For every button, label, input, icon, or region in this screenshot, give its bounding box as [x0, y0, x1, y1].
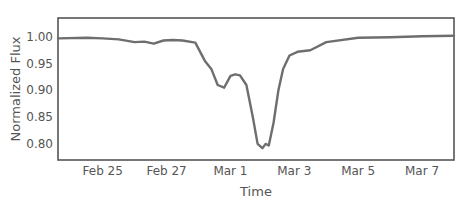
y-axis-label: Normalized Flux — [8, 36, 23, 141]
x-axis-ticks: Feb 25Feb 27Mar 1Mar 3Mar 5Mar 7 — [83, 164, 440, 178]
y-tick-label: 0.95 — [26, 57, 53, 71]
y-tick-label: 0.80 — [26, 137, 53, 151]
x-tick-label: Feb 27 — [146, 164, 186, 178]
flux-chart: 1.000.950.900.850.80 Feb 25Feb 27Mar 1Ma… — [0, 0, 466, 205]
y-tick-label: 0.85 — [26, 110, 53, 124]
y-tick-label: 1.00 — [26, 30, 53, 44]
x-axis-label: Time — [239, 184, 272, 199]
x-tick-label: Feb 25 — [83, 164, 123, 178]
x-tick-label: Mar 7 — [405, 164, 439, 178]
flux-line — [58, 36, 454, 149]
x-tick-label: Mar 3 — [277, 164, 311, 178]
y-axis-ticks: 1.000.950.900.850.80 — [26, 30, 53, 151]
plot-area — [58, 18, 454, 160]
y-tick-label: 0.90 — [26, 83, 53, 97]
x-tick-label: Mar 1 — [213, 164, 247, 178]
x-tick-label: Mar 5 — [341, 164, 375, 178]
